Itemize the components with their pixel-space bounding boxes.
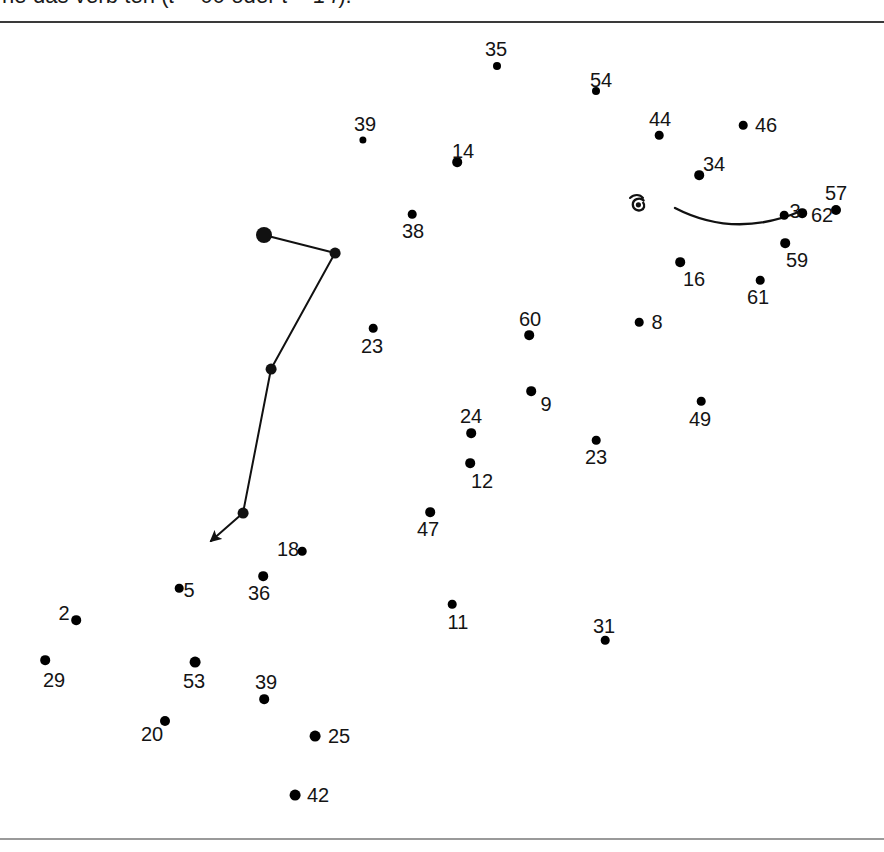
data-point-label: 42: [307, 785, 329, 805]
data-point-label: 59: [786, 250, 808, 270]
data-point-label: 9: [540, 394, 551, 414]
data-point-label: 46: [755, 115, 777, 135]
data-point-label: 24: [460, 406, 482, 426]
data-point: [40, 655, 50, 665]
caption-value-2: 14: [314, 0, 339, 8]
data-point-label: 47: [417, 519, 439, 539]
data-point-label: 5: [183, 580, 194, 600]
scatter-plot: 3554394446143435738625916618602394924231…: [0, 23, 884, 838]
caption-conjunction: oder: [225, 0, 282, 8]
caption-prefix: ne das verb ten (: [2, 0, 169, 8]
data-point: [697, 397, 706, 406]
data-point-label: 31: [593, 616, 615, 636]
data-point: [448, 600, 457, 609]
data-point-label: 23: [361, 336, 383, 356]
data-point: [780, 211, 789, 220]
data-point: [175, 584, 184, 593]
data-point: [756, 276, 765, 285]
data-point-label: 25: [328, 726, 350, 746]
trajectory-vertex: [256, 227, 272, 243]
data-point-label: 14: [452, 141, 474, 161]
trajectory-vertex: [266, 364, 277, 375]
movement-path-line: [211, 235, 335, 541]
data-point-label: 20: [141, 724, 163, 744]
data-point: [408, 210, 417, 219]
vector-layer: [0, 23, 884, 838]
caption-equals-1: =: [175, 0, 200, 8]
data-point-label: 39: [354, 114, 376, 134]
data-point-label: 12: [471, 471, 493, 491]
data-point-label: 34: [703, 154, 725, 174]
data-point: [190, 657, 201, 668]
data-point-label: 16: [683, 269, 705, 289]
spiral-icon: [630, 195, 644, 210]
data-point: [359, 136, 366, 143]
data-point: [259, 694, 269, 704]
data-point: [71, 615, 81, 625]
data-point: [655, 131, 664, 140]
data-point: [675, 257, 685, 267]
caption-strip: ne das verb ten (t = 66 oder t = 14).: [0, 0, 884, 18]
data-point: [466, 428, 476, 438]
data-point-label: 39: [255, 672, 277, 692]
data-point-label: 57: [825, 183, 847, 203]
data-point: [290, 790, 301, 801]
data-point-label: 54: [590, 70, 612, 90]
data-point-label: 11: [448, 612, 469, 632]
data-point: [592, 436, 601, 445]
data-point-label: 61: [747, 287, 769, 307]
data-point: [526, 386, 536, 396]
trajectory-vertex: [330, 248, 341, 259]
data-point: [739, 121, 748, 130]
figure-root: ne das verb ten (t = 66 oder t = 14). 35…: [0, 0, 884, 852]
data-point: [425, 507, 435, 517]
data-point-label: 3: [789, 201, 800, 221]
data-point-label: 8: [651, 312, 662, 332]
data-point-label: 44: [649, 109, 671, 129]
data-point-label: 49: [689, 409, 711, 429]
data-point: [369, 324, 378, 333]
data-point-label: 2: [58, 603, 69, 623]
data-point-label: 18: [277, 539, 299, 559]
data-point-label: 53: [183, 671, 205, 691]
data-point: [310, 731, 321, 742]
divider-bottom: [0, 838, 884, 840]
caption-equals-2: =: [288, 0, 313, 8]
caption-suffix: ).: [338, 0, 352, 8]
data-point: [258, 571, 268, 581]
data-point: [493, 62, 501, 70]
caption-text: ne das verb ten (t = 66 oder t = 14).: [2, 0, 352, 9]
data-point-label: 36: [248, 583, 270, 603]
data-point: [465, 458, 475, 468]
data-point: [635, 318, 644, 327]
data-point: [524, 330, 534, 340]
data-point-label: 35: [485, 39, 507, 59]
data-point-label: 60: [519, 309, 541, 329]
data-point-label: 23: [585, 447, 607, 467]
caption-value-1: 66: [200, 0, 225, 8]
data-point-label: 38: [402, 221, 424, 241]
data-point: [780, 238, 790, 248]
trajectory-vertex: [238, 508, 249, 519]
data-point-label: 62: [811, 205, 833, 225]
data-point-label: 29: [43, 670, 65, 690]
